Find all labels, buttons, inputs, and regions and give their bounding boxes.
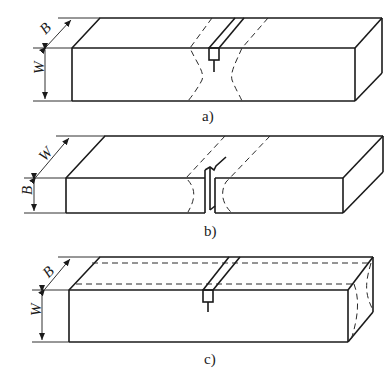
panel-c: B W c) — [28, 257, 373, 368]
dimension-b-label: B — [36, 19, 54, 37]
panel-b: W B b) — [19, 136, 383, 240]
caption-c: c) — [204, 351, 216, 368]
specimen-diagram: B W a) W B — [0, 0, 389, 380]
dimension-w-label: W — [35, 143, 56, 164]
caption-a: a) — [202, 108, 214, 125]
caption-b: b) — [204, 223, 217, 240]
dimension-w-label: W — [28, 302, 44, 316]
dimension-w-label: W — [31, 60, 47, 74]
dimension-b-label: B — [19, 186, 35, 195]
panel-a: B W a) — [31, 18, 382, 125]
